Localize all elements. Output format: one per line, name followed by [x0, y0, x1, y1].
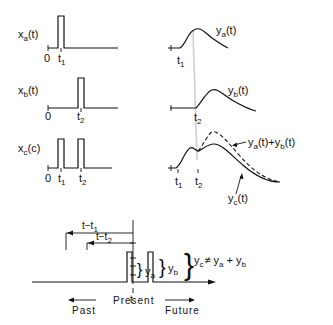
yb-label: yb(t): [228, 84, 248, 99]
future-arrowhead: [189, 298, 195, 303]
ya-magnitude-label: ya: [145, 265, 156, 280]
xc-label: xc(c): [18, 142, 40, 157]
yc-label: yc(t): [228, 192, 248, 207]
ya-label: ya(t): [216, 24, 236, 39]
xb-label: xb(t): [18, 84, 38, 99]
xa-label: xa(t): [18, 28, 38, 43]
future-label: Future: [165, 305, 200, 316]
brace-ya: }: [137, 261, 143, 278]
xb-signal: [48, 78, 118, 108]
xb-t2-label: t2: [77, 110, 85, 125]
t2-alignment-guide: [193, 30, 197, 160]
sum-pointer-arrowhead: [232, 143, 237, 148]
yc-t1-label: t1: [175, 175, 183, 190]
output-yc-plot: ya(t)+yb(t) yc(t) t1 t2: [168, 132, 295, 207]
span-t-t2-arrowhead: [88, 241, 94, 246]
past-arrowhead: [68, 298, 74, 303]
xa-origin-label: 0: [44, 52, 50, 64]
brace-yb: }: [159, 256, 166, 278]
yc-t2-label: t2: [195, 175, 203, 190]
xa-t1-label: t1: [58, 52, 66, 67]
span-t-t1-arrowhead: [67, 231, 73, 236]
ya-t1-label: t1: [177, 54, 185, 69]
timeline-diagram: t−t1 t−t2 } ya } yb } yc≠ya+yb t Present…: [32, 220, 246, 316]
present-label: Present: [113, 295, 154, 306]
output-yb-plot: yb(t) t2: [170, 84, 256, 126]
xc-t2-label: t2: [79, 172, 87, 187]
xc-signal: [48, 139, 112, 168]
input-xb-plot: xb(t) 0 t2: [18, 78, 118, 125]
input-xc-plot: xc(c) 0 t1 t2: [18, 139, 112, 187]
brace-yc: }: [184, 248, 194, 281]
past-label: Past: [72, 305, 96, 316]
xb-origin-label: 0: [45, 110, 51, 122]
input-xa-plot: xa(t) 0 t1: [18, 16, 118, 67]
yb-magnitude-label: yb: [168, 262, 179, 277]
output-ya-plot: ya(t) t1: [168, 24, 236, 69]
xa-signal: [48, 16, 118, 48]
sum-label: ya(t)+yb(t): [248, 136, 295, 151]
time-axis-arrowhead: [208, 280, 216, 285]
diagram-canvas: xa(t) 0 t1 xb(t) 0 t2 xc(c) 0 t1 t2 ya(t…: [0, 0, 333, 325]
xc-t1-label: t1: [58, 172, 66, 187]
xc-origin-label: 0: [45, 172, 51, 184]
yc-pointer-arrowhead: [240, 173, 244, 179]
yc-inequality-label: yc≠ya+yb: [194, 254, 246, 269]
